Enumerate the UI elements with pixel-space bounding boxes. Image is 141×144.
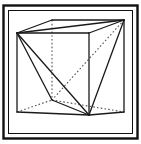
figure-container (0, 0, 141, 144)
cube-tetrahedron-figure (0, 0, 141, 144)
